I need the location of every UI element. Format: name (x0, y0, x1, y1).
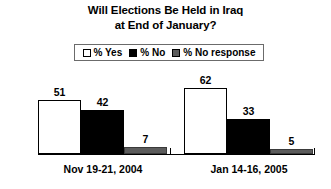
bar-yes-jan-2005[interactable] (184, 88, 227, 154)
bar-yes-nov-2004[interactable] (38, 100, 81, 154)
legend-item-no-response[interactable]: % No response (172, 48, 255, 58)
bar-slot: 7 (124, 80, 167, 154)
bar-value-label: 33 (227, 106, 270, 117)
bar-value-label: 42 (81, 97, 124, 108)
legend-label-no-response: % No response (183, 48, 255, 58)
bar-slot: 42 (81, 80, 124, 154)
bar-value-label: 5 (270, 136, 313, 147)
bar-no-response-nov-2004[interactable] (124, 147, 167, 154)
page-title: Will Elections Be Held in Iraq at End of… (0, 3, 331, 33)
chart-legend: % Yes % No % No response (74, 44, 264, 61)
title-line-2: at End of January? (0, 18, 331, 33)
bar-value-label: 7 (124, 134, 167, 145)
bar-value-label: 62 (184, 75, 227, 86)
bar-slot: 62 (184, 80, 227, 154)
bar-no-nov-2004[interactable] (81, 110, 124, 154)
title-line-1: Will Elections Be Held in Iraq (0, 3, 331, 18)
axis-tick-right (314, 148, 315, 155)
white-square-icon (83, 49, 91, 57)
bar-slot: 5 (270, 80, 313, 154)
bar-slot: 33 (227, 80, 270, 154)
category-label-jan-2005: Jan 14-16, 2005 (184, 163, 314, 175)
legend-label-no: % No (140, 48, 165, 58)
legend-item-no[interactable]: % No (129, 48, 165, 58)
category-label-nov-2004: Nov 19-21, 2004 (38, 163, 168, 175)
axis-tick-middle (170, 148, 171, 155)
legend-item-yes[interactable]: % Yes (83, 48, 123, 58)
bar-no-jan-2005[interactable] (227, 119, 270, 154)
bar-slot: 51 (38, 80, 81, 154)
axis-baseline (38, 154, 315, 155)
black-square-icon (129, 49, 137, 57)
bar-no-response-jan-2005[interactable] (270, 149, 313, 154)
chart-plot-area: 51 42 7 62 33 5 (0, 80, 331, 155)
bar-group-jan-2005: 62 33 5 (184, 80, 314, 154)
bar-group-nov-2004: 51 42 7 (38, 80, 168, 154)
bar-value-label: 51 (38, 87, 81, 98)
legend-label-yes: % Yes (94, 48, 123, 58)
gray-square-icon (172, 49, 180, 57)
